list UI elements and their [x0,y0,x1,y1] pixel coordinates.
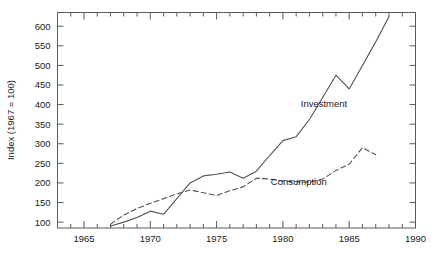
y-tick-label: 150 [35,197,51,208]
y-tick-label: 550 [35,40,51,51]
series-line-investment [111,16,389,226]
x-tick-label: 1970 [140,233,161,244]
y-tick-label: 600 [35,21,51,32]
y-axis-ticks [58,26,64,222]
y-tick-label: 250 [35,158,51,169]
x-axis-major-ticks [84,221,415,228]
chart-container: 100150200250300350400450500550600 196519… [0,0,434,263]
y-tick-label: 100 [35,217,51,228]
plot-frame [58,13,416,229]
x-axis-major-ticks-top [84,13,415,20]
y-tick-label: 400 [35,99,51,110]
plot-area-border [58,13,416,229]
y-axis-tick-labels: 100150200250300350400450500550600 [35,21,51,228]
x-tick-label: 1985 [339,233,360,244]
y-tick-label: 200 [35,177,51,188]
y-tick-label: 450 [35,79,51,90]
x-axis-minor-ticks-top [58,13,403,17]
x-axis-tick-labels: 196519701975198019851990 [73,233,426,244]
data-series-group [111,16,389,226]
line-chart: 100150200250300350400450500550600 196519… [0,0,434,263]
y-tick-label: 350 [35,119,51,130]
y-tick-label: 300 [35,138,51,149]
y-axis-ticks-right [410,26,416,222]
x-axis-minor-ticks [58,224,403,228]
x-tick-label: 1990 [405,233,426,244]
y-axis-title: Index (1967 = 100) [5,80,16,160]
series-label-investment: Investment [301,98,348,109]
series-line-consumption [111,148,376,224]
x-tick-label: 1975 [206,233,227,244]
x-tick-label: 1980 [272,233,293,244]
series-label-consumption: Consumption [271,176,327,187]
x-tick-label: 1965 [73,233,94,244]
y-tick-label: 500 [35,60,51,71]
